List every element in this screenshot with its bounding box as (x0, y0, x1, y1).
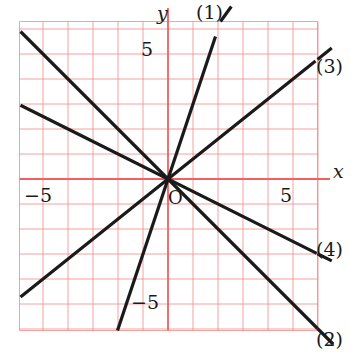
y-axis-label: y (157, 4, 168, 23)
series-label-3: (3) (316, 57, 343, 76)
series-label-1: (1) (196, 3, 223, 22)
graph-figure: y x 5 −5 5 −5 O (1) (3) (4) (2) (0, 0, 363, 363)
series-label-4: (4) (316, 240, 343, 259)
x-tick-5: 5 (280, 186, 292, 205)
coordinate-plane (0, 0, 363, 363)
y-tick-5: 5 (141, 40, 153, 59)
x-axis-label: x (333, 162, 344, 181)
x-tick-minus-5: −5 (24, 186, 52, 205)
series-label-2: (2) (316, 330, 343, 349)
origin-label: O (168, 189, 183, 207)
y-tick-minus-5: −5 (131, 293, 159, 312)
